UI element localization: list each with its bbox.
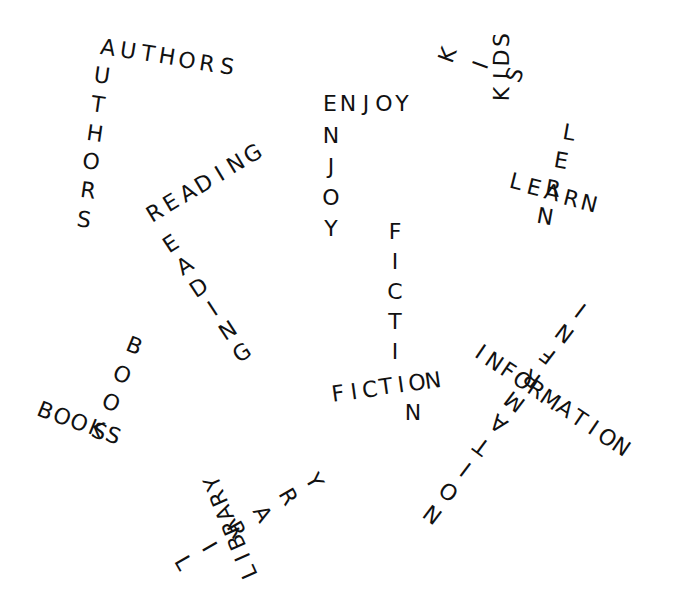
letter-o: O [109, 361, 136, 389]
letter-f: F [385, 221, 405, 243]
letter-o: O [80, 150, 103, 175]
letter-n: N [338, 93, 358, 115]
letter-t: T [468, 431, 497, 461]
letter-e: E [549, 148, 573, 173]
letter-n: N [403, 402, 423, 424]
letter-i: I [195, 532, 224, 560]
letter-c: C [385, 281, 405, 303]
letter-l: L [557, 120, 581, 145]
letter-s: S [491, 30, 514, 51]
letter-s: S [73, 208, 96, 233]
letter-i: I [566, 295, 595, 325]
letter-o: O [97, 390, 124, 418]
letter-n: N [422, 368, 445, 393]
letter-y: Y [392, 93, 412, 115]
letter-i: I [385, 251, 405, 273]
letter-g: G [227, 338, 256, 367]
letter-t: T [385, 311, 405, 333]
letter-n: N [576, 191, 601, 217]
letter-k: K [491, 84, 514, 105]
letter-k: K [434, 42, 462, 68]
letter-o: O [321, 187, 341, 209]
letter-s: S [215, 54, 238, 79]
letter-y: Y [300, 467, 329, 495]
letter-r: R [541, 176, 565, 201]
word-art-canvas: AUTHORS UTHORS READING EADING ENJOY NJOY… [0, 0, 678, 610]
letter-r: R [274, 483, 303, 511]
letter-h: H [83, 121, 106, 146]
letter-r: R [76, 179, 99, 204]
letter-j: J [356, 93, 376, 115]
letter-j: J [321, 156, 341, 178]
letter-n: N [533, 204, 557, 229]
letter-a: A [247, 500, 276, 528]
letter-e: E [320, 93, 340, 115]
letter-b: B [121, 332, 148, 360]
letter-y: Y [321, 218, 341, 240]
letter-t: T [87, 92, 110, 117]
letter-i: I [385, 341, 405, 363]
letter-n: N [321, 125, 341, 147]
letter-o: O [374, 93, 394, 115]
letter-u: U [91, 64, 114, 89]
letter-l: L [168, 549, 197, 577]
